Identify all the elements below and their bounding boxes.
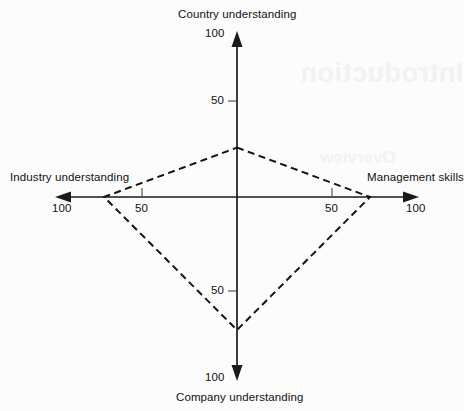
axis-arrow-left-icon bbox=[55, 192, 71, 203]
tick-label-bottom-50: 50 bbox=[211, 284, 224, 296]
tick-label-top-50: 50 bbox=[211, 94, 224, 106]
axis-label-management-skills: Management skills bbox=[367, 171, 464, 183]
axis-label-company-understanding: Company understanding bbox=[176, 391, 303, 403]
tick-label-left-100: 100 bbox=[52, 202, 72, 214]
tick-label-left-50: 50 bbox=[135, 202, 148, 214]
vertical-axis-group bbox=[228, 31, 243, 381]
axis-label-industry-understanding: Industry understanding bbox=[10, 171, 129, 183]
tick-label-right-100: 100 bbox=[406, 202, 426, 214]
axis-arrow-down-icon bbox=[232, 365, 243, 381]
tick-label-bottom-100: 100 bbox=[205, 371, 225, 383]
tick-label-right-50: 50 bbox=[325, 202, 338, 214]
axis-arrow-right-icon bbox=[403, 192, 419, 203]
axis-arrow-up-icon bbox=[232, 31, 243, 47]
tick-label-top-100: 100 bbox=[205, 27, 225, 39]
axis-label-country-understanding: Country understanding bbox=[178, 8, 296, 20]
